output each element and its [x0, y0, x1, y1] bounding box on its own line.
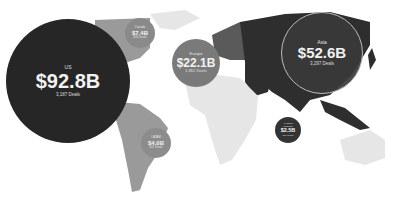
region-deals: 3,297 Deals [310, 61, 334, 66]
bubble-canada[interactable]: Canada $7.4B 404 Deals [125, 18, 155, 48]
region-value: $52.6B [298, 45, 346, 61]
region-label: Asia [317, 40, 327, 46]
deal-volume-map: US $92.8B 3,187 Deals Canada $7.4B 404 D… [0, 0, 405, 197]
region-label: All Other Regions [279, 123, 297, 129]
region-label: LATAM [151, 136, 161, 139]
region-value: $92.8B [36, 71, 101, 92]
bubble-us[interactable]: US $92.8B 3,187 Deals [6, 19, 130, 143]
bubble-asia[interactable]: Asia $52.6B 3,297 Deals [281, 12, 363, 94]
region-deals: 404 Deals [133, 36, 147, 40]
bubble-europe[interactable]: Europe $22.1B 1,861 Deals [172, 39, 220, 87]
region-label: US [65, 65, 72, 71]
region-deals: 3,187 Deals [56, 92, 80, 97]
region-deals: 211 Deals [282, 134, 293, 137]
region-deals: 321 Deals [149, 146, 163, 150]
region-deals: 1,861 Deals [185, 69, 206, 74]
bubble-other-regions[interactable]: All Other Regions $2.5B 211 Deals [275, 117, 301, 143]
bubble-latam[interactable]: LATAM $4.0B 321 Deals [141, 128, 171, 158]
region-label: Europe [190, 52, 203, 56]
region-label: Canada [135, 26, 146, 29]
